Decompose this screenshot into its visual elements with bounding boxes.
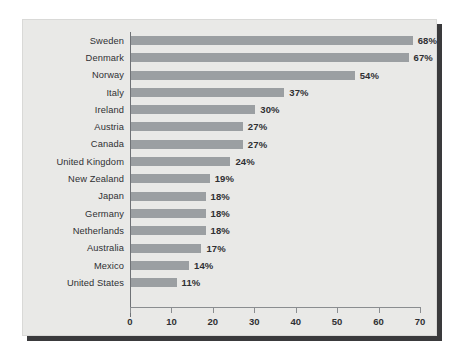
bar-value-label: 54% xyxy=(360,70,379,81)
axis-tick-mark xyxy=(337,308,338,313)
bar-with-value: 18% xyxy=(131,226,230,235)
category-label: Japan xyxy=(0,191,124,201)
bar-value-label: 17% xyxy=(206,243,225,254)
bar-with-value: 18% xyxy=(131,209,230,218)
bar-with-value: 54% xyxy=(131,71,379,80)
bar-with-value: 68% xyxy=(131,36,437,45)
bar-with-value: 14% xyxy=(131,261,213,270)
bar-row: United Kingdom24% xyxy=(23,153,438,170)
category-label: United Kingdom xyxy=(0,157,124,167)
bar-row: Japan18% xyxy=(23,188,438,205)
bar-row: Germany18% xyxy=(23,205,438,222)
bar-value-label: 27% xyxy=(248,139,267,150)
bar xyxy=(131,192,206,201)
bar-with-value: 18% xyxy=(131,192,230,201)
bar-value-label: 24% xyxy=(235,156,254,167)
axis-tick-label: 30 xyxy=(234,316,274,327)
bar xyxy=(131,209,206,218)
bar-with-value: 67% xyxy=(131,53,433,62)
chart-panel: Sweden68%Denmark67%Norway54%Italy37%Irel… xyxy=(22,19,437,336)
bar-row: Norway54% xyxy=(23,67,438,84)
bar-value-label: 19% xyxy=(215,173,234,184)
category-label: New Zealand xyxy=(0,174,124,184)
bar xyxy=(131,122,243,131)
bar-value-label: 18% xyxy=(211,208,230,219)
bar-with-value: 30% xyxy=(131,105,280,114)
bar-row: Denmark67% xyxy=(23,49,438,66)
axis-tick-label: 70 xyxy=(400,316,440,327)
axis-tick-label: 20 xyxy=(193,316,233,327)
bar-value-label: 30% xyxy=(260,104,279,115)
bar xyxy=(131,53,409,62)
bar-row: New Zealand19% xyxy=(23,170,438,187)
bar xyxy=(131,226,206,235)
category-label: Ireland xyxy=(0,105,124,115)
axis-tick-mark xyxy=(213,308,214,313)
bar xyxy=(131,88,284,97)
chart-figure: Sweden68%Denmark67%Norway54%Italy37%Irel… xyxy=(0,0,462,358)
axis-tick-mark xyxy=(130,308,131,313)
bar-value-label: 11% xyxy=(182,277,201,288)
category-label: Canada xyxy=(0,139,124,149)
category-label: Italy xyxy=(0,88,124,98)
bar-row: Netherlands18% xyxy=(23,222,438,239)
category-label: Denmark xyxy=(0,53,124,63)
plot-area: Sweden68%Denmark67%Norway54%Italy37%Irel… xyxy=(23,20,438,337)
bar-value-label: 37% xyxy=(289,87,308,98)
bar-row: Austria27% xyxy=(23,118,438,135)
axis-tick-mark xyxy=(171,308,172,313)
category-label: Mexico xyxy=(0,261,124,271)
axis-tick-label: 40 xyxy=(276,316,316,327)
category-label: Norway xyxy=(0,70,124,80)
bar-row: United States11% xyxy=(23,274,438,291)
axis-tick-label: 60 xyxy=(359,316,399,327)
bar xyxy=(131,71,355,80)
bar-with-value: 19% xyxy=(131,174,234,183)
axis-tick-mark xyxy=(254,308,255,313)
bar-row: Australia17% xyxy=(23,240,438,257)
bar-value-label: 18% xyxy=(211,225,230,236)
bar xyxy=(131,105,255,114)
bar-value-label: 18% xyxy=(211,191,230,202)
category-label: Austria xyxy=(0,122,124,132)
bar-row: Sweden68% xyxy=(23,32,438,49)
category-label: Netherlands xyxy=(0,226,124,236)
bar-value-label: 68% xyxy=(418,35,437,46)
category-label: Australia xyxy=(0,243,124,253)
bar-series: Sweden68%Denmark67%Norway54%Italy37%Irel… xyxy=(23,32,438,291)
bar-value-label: 67% xyxy=(414,52,433,63)
bar xyxy=(131,36,413,45)
category-label: Germany xyxy=(0,209,124,219)
category-label: Sweden xyxy=(0,36,124,46)
bar xyxy=(131,278,177,287)
bar-row: Mexico14% xyxy=(23,257,438,274)
bar xyxy=(131,140,243,149)
bar-with-value: 37% xyxy=(131,88,309,97)
bar xyxy=(131,174,210,183)
bar-with-value: 27% xyxy=(131,122,267,131)
axis-tick-mark xyxy=(379,308,380,313)
bar-with-value: 11% xyxy=(131,278,200,287)
value-axis-ticks: 010203040506070 xyxy=(130,308,421,336)
bar-row: Canada27% xyxy=(23,136,438,153)
bar xyxy=(131,157,230,166)
bar-with-value: 24% xyxy=(131,157,255,166)
axis-tick-label: 10 xyxy=(151,316,191,327)
bar xyxy=(131,261,189,270)
bar-value-label: 27% xyxy=(248,121,267,132)
bar-row: Italy37% xyxy=(23,84,438,101)
bar-value-label: 14% xyxy=(194,260,213,271)
axis-tick-label: 50 xyxy=(317,316,357,327)
axis-tick-mark xyxy=(420,308,421,313)
bar-with-value: 27% xyxy=(131,140,267,149)
axis-tick-mark xyxy=(296,308,297,313)
bar-row: Ireland30% xyxy=(23,101,438,118)
bar xyxy=(131,244,201,253)
category-label: United States xyxy=(0,278,124,288)
axis-tick-label: 0 xyxy=(110,316,150,327)
bar-with-value: 17% xyxy=(131,244,226,253)
